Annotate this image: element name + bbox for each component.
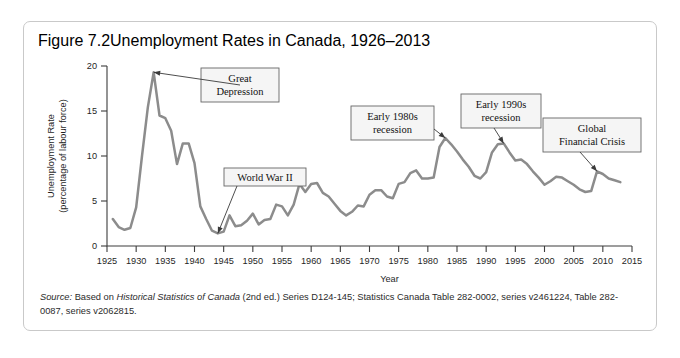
source-text-before: Based on bbox=[72, 292, 116, 302]
x-tick-label: 1990 bbox=[476, 256, 496, 266]
annotation-global-financial-crisis: GlobalFinancial Crisis bbox=[543, 118, 641, 171]
source-note: Source: Based on Historical Statistics o… bbox=[40, 290, 640, 319]
y-tick-label: 0 bbox=[92, 241, 97, 251]
x-tick-label: 1970 bbox=[359, 256, 379, 266]
annotation-label-line1: Great bbox=[228, 73, 251, 84]
x-tick-label: 1975 bbox=[388, 256, 408, 266]
annotation-world-war-ii: World War II bbox=[218, 168, 306, 233]
y-axis-title-line2: (percentage of labour force) bbox=[58, 99, 68, 212]
source-label: Source: bbox=[40, 292, 72, 302]
x-tick-label: 2015 bbox=[622, 256, 642, 266]
chart-axes bbox=[107, 66, 632, 246]
y-axis-title-line1: Unemployment Rate bbox=[46, 114, 56, 198]
annotation-label-line2: Financial Crisis bbox=[559, 136, 625, 147]
y-tick-label: 5 bbox=[92, 196, 97, 206]
x-tick-label: 1945 bbox=[213, 256, 233, 266]
chart-svg: 0510152019251930193519401945195019551960… bbox=[24, 48, 658, 288]
x-tick-label: 1995 bbox=[505, 256, 525, 266]
x-tick-label: 1940 bbox=[184, 256, 204, 266]
source-work-title: Historical Statistics of Canada bbox=[117, 292, 241, 302]
annotation-label-line2: recession bbox=[481, 112, 521, 123]
x-tick-label: 1935 bbox=[155, 256, 175, 266]
annotation-arrowhead bbox=[498, 137, 504, 144]
x-tick-label: 1950 bbox=[243, 256, 263, 266]
x-tick-label: 1965 bbox=[330, 256, 350, 266]
x-tick-label: 1985 bbox=[447, 256, 467, 266]
annotation-early-1980s-recession: Early 1980srecession bbox=[351, 106, 445, 140]
annotation-label-line1: World War II bbox=[237, 172, 293, 183]
y-tick-label: 10 bbox=[87, 151, 97, 161]
x-tick-label: 2005 bbox=[563, 256, 583, 266]
unemployment-line-chart: 0510152019251930193519401945195019551960… bbox=[24, 48, 658, 288]
annotation-label-line1: Early 1980s bbox=[367, 111, 417, 122]
x-tick-label: 2000 bbox=[534, 256, 554, 266]
x-tick-label: 1925 bbox=[97, 256, 117, 266]
x-tick-label: 1980 bbox=[418, 256, 438, 266]
annotation-arrowhead bbox=[439, 132, 446, 138]
x-axis-title: Year bbox=[380, 274, 399, 284]
x-tick-label: 1930 bbox=[126, 256, 146, 266]
y-tick-label: 20 bbox=[87, 61, 97, 71]
annotation-label-line1: Early 1990s bbox=[476, 99, 526, 110]
x-tick-label: 2010 bbox=[593, 256, 613, 266]
annotation-label-line1: Global bbox=[578, 123, 607, 134]
figure-card: Figure 7.2 Unemployment Rates in Canada,… bbox=[23, 21, 657, 331]
data-series-line bbox=[113, 72, 621, 233]
annotation-early-1990s-recession: Early 1990srecession bbox=[461, 94, 541, 143]
annotation-label-line2: recession bbox=[373, 124, 413, 135]
y-tick-label: 15 bbox=[87, 106, 97, 116]
annotation-label-line2: Depression bbox=[216, 86, 264, 97]
annotation-great-depression: GreatDepression bbox=[154, 68, 279, 102]
x-tick-label: 1960 bbox=[301, 256, 321, 266]
x-tick-label: 1955 bbox=[272, 256, 292, 266]
